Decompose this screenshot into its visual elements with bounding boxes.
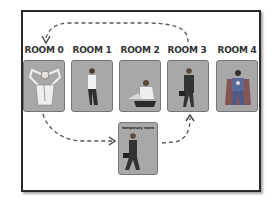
person-standing-icon	[72, 61, 113, 112]
person-relaxing-icon	[24, 61, 65, 112]
temporary-room: temporary room	[118, 122, 158, 175]
room-2	[119, 60, 161, 112]
arrow-room3-to-room0	[46, 23, 188, 42]
room-4	[216, 60, 258, 112]
room-3	[167, 60, 209, 112]
person-with-laptop-icon	[120, 61, 161, 112]
arrow-temp-to-room3	[162, 118, 190, 143]
room-1-label: ROOM 1	[68, 45, 116, 55]
businessman-icon	[168, 61, 209, 112]
room-4-label: ROOM 4	[213, 45, 261, 55]
room-0	[23, 60, 65, 112]
room-3-label: ROOM 3	[163, 45, 211, 55]
walking-businessman-icon	[119, 123, 158, 175]
superhero-icon	[217, 61, 258, 112]
room-0-label: ROOM 0	[20, 45, 68, 55]
arrow-room0-to-temp	[43, 114, 112, 141]
room-1	[71, 60, 113, 112]
room-2-label: ROOM 2	[116, 45, 164, 55]
